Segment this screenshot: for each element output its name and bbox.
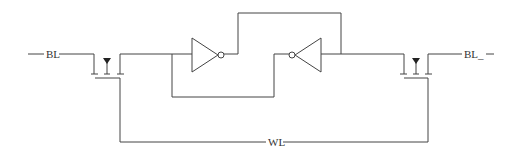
feedback-wire-top <box>224 13 341 54</box>
wl-wire-left <box>120 78 266 142</box>
access-transistor-right <box>400 54 462 78</box>
bl-bar-label: BL_ <box>464 48 484 60</box>
feedback-wire-bottom <box>172 54 289 97</box>
access-transistor-left <box>91 54 172 78</box>
wl-label: WL <box>268 136 285 148</box>
wl-wire-right <box>283 78 428 142</box>
arrow-icon <box>103 58 111 64</box>
inverter-left <box>192 38 224 72</box>
sram-cell-diagram: BL BL_ WL <box>0 0 525 154</box>
arrow-icon <box>412 58 420 64</box>
inverter-right <box>289 38 321 72</box>
bl-label: BL <box>46 48 60 60</box>
